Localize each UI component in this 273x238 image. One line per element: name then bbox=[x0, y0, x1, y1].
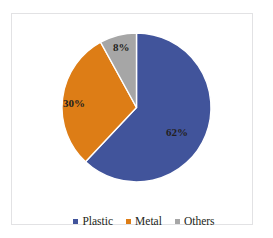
slice-data-label-plastic: 62% bbox=[166, 127, 188, 138]
pie-chart: 62% 30% 8% bbox=[0, 0, 273, 238]
pie-chart-svg bbox=[0, 0, 273, 238]
slice-data-label-metal: 30% bbox=[63, 98, 85, 109]
slice-data-label-others: 8% bbox=[113, 42, 130, 53]
